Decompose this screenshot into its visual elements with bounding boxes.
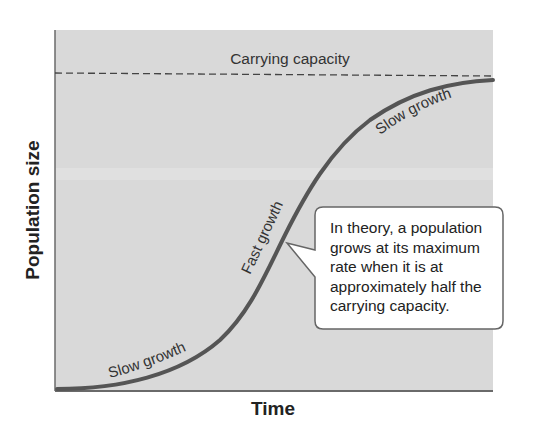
logistic-growth-chart: Carrying capacity Slow growth Fast growt… — [0, 0, 546, 426]
callout-line: grows at its maximum — [330, 238, 505, 258]
carrying-capacity-label: Carrying capacity — [230, 50, 350, 67]
callout-line: carrying capacity. — [330, 296, 505, 316]
callout-line: rate when it is at — [330, 257, 505, 277]
callout-line: approximately half the — [330, 277, 505, 297]
callout-text: In theory, a population grows at its max… — [330, 218, 505, 316]
callout-line: In theory, a population — [330, 218, 505, 238]
x-axis-label: Time — [0, 398, 546, 420]
y-axis-label: Population size — [22, 140, 44, 279]
